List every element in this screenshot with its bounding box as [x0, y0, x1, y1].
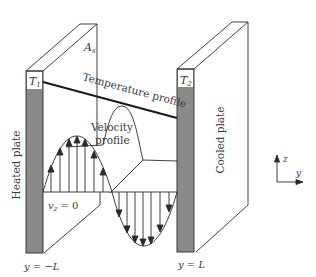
heated-plate	[26, 24, 100, 253]
y-left-label: y = −L	[23, 261, 60, 272]
y-right-label: y = L	[177, 259, 205, 270]
axis-z-label: z	[282, 154, 288, 164]
velocity-profile-down-lobe	[112, 192, 177, 246]
cooled-plate-label: Cooled plate	[214, 106, 226, 173]
velocity-profile-label-1: Velocity	[90, 121, 133, 133]
area-label: As	[83, 41, 96, 55]
y-axis-arrow-icon	[296, 180, 303, 185]
axis-y-label: y	[295, 168, 302, 178]
vz-zero-label: vz = 0	[48, 200, 78, 213]
z-axis-arrow-icon	[275, 155, 280, 162]
velocity-profile-back	[66, 106, 177, 193]
diagram-canvas: As T1 T2 Temperature profile Velocity pr…	[0, 0, 316, 277]
heated-plate-label: Heated plate	[10, 131, 22, 200]
cooled-plate	[177, 22, 248, 252]
velocity-profile-label-2: profile	[95, 134, 130, 146]
